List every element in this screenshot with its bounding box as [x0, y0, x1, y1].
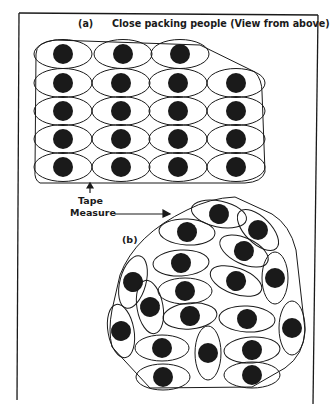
person-head: [226, 129, 246, 149]
person-head: [223, 268, 249, 294]
person: [149, 153, 207, 182]
tape-label-line1: Tape: [78, 195, 103, 206]
tape-label-line2: Measure: [70, 207, 116, 218]
person: [207, 97, 265, 126]
person: [206, 260, 266, 303]
person: [92, 125, 150, 154]
person-head: [109, 319, 132, 342]
person-head: [168, 157, 188, 177]
frame-left-border: [17, 13, 19, 400]
person: [92, 97, 150, 126]
panel-a-label: (a): [78, 18, 93, 29]
frame-right-border: [313, 15, 318, 404]
person: [223, 336, 280, 365]
person-head: [170, 44, 190, 64]
panel-a-title: Close packing people (View from above): [112, 18, 330, 29]
person: [104, 302, 139, 360]
person-head: [226, 101, 246, 121]
person-head: [168, 73, 188, 93]
person: [279, 301, 305, 355]
person-head: [236, 308, 257, 329]
person: [34, 125, 92, 154]
person-head: [175, 281, 195, 301]
person-head: [226, 157, 246, 177]
person-head: [111, 73, 131, 93]
person: [218, 305, 275, 334]
person-head: [241, 339, 262, 360]
person-head: [244, 216, 272, 244]
person: [149, 69, 207, 98]
person-head: [179, 305, 201, 327]
person-head: [168, 101, 188, 121]
person-head: [198, 343, 218, 363]
person-head: [170, 252, 191, 273]
person: [94, 40, 152, 69]
person: [262, 252, 288, 304]
person: [195, 326, 221, 380]
person: [162, 301, 218, 332]
person-head: [53, 129, 73, 149]
tape-arrow-right-head: [163, 210, 170, 217]
person-head: [265, 268, 285, 288]
person: [158, 278, 212, 304]
person-head: [53, 157, 73, 177]
person: [92, 69, 150, 98]
person-head: [113, 44, 133, 64]
tape-arrow-up-head: [87, 183, 93, 188]
person-head: [168, 129, 188, 149]
person: [149, 125, 207, 154]
person-head: [226, 73, 246, 93]
person: [158, 218, 215, 247]
person: [207, 153, 265, 182]
panel-b-cluster: [104, 195, 305, 390]
person: [92, 153, 150, 182]
person-head: [111, 157, 131, 177]
person: [224, 362, 280, 388]
person: [135, 335, 189, 361]
person-head: [111, 101, 131, 121]
person: [136, 364, 190, 390]
person-head: [152, 338, 172, 358]
close-packing-diagram: [0, 0, 335, 420]
person: [149, 97, 207, 126]
person-head: [53, 44, 73, 64]
person: [34, 97, 92, 126]
person-head: [53, 73, 73, 93]
person-head: [138, 295, 161, 318]
person-head: [207, 202, 231, 226]
person-head: [242, 365, 262, 385]
person: [34, 153, 92, 182]
frame-top-border: [19, 13, 318, 15]
person: [152, 249, 209, 278]
person-head: [53, 101, 73, 121]
person-head: [282, 318, 302, 338]
panel-a-grid: [34, 40, 265, 182]
panel-b-label: (b): [122, 234, 137, 245]
person-head: [153, 367, 173, 387]
person: [207, 125, 265, 154]
person-head: [111, 129, 131, 149]
person: [34, 69, 92, 98]
person-head: [176, 221, 197, 242]
